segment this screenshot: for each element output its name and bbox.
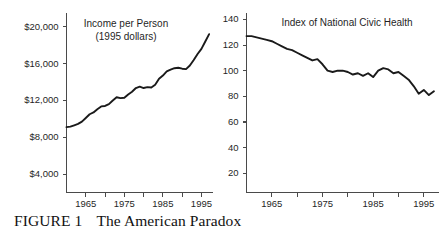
civic-axes	[247, 13, 440, 193]
civic-x-tick-group	[272, 193, 424, 197]
figure-container: $4,000$8,000$12,000$16,000$20,000 196519…	[0, 0, 448, 240]
chart-income-per-person: $4,000$8,000$12,000$16,000$20,000 196519…	[0, 0, 224, 206]
civic-y-tick-label: 40	[228, 142, 239, 153]
income-x-tick-group	[86, 193, 202, 197]
income-x-tick-label: 1995	[191, 198, 212, 209]
civic-y-tick-label: 80	[228, 90, 239, 101]
income-y-label-group: $4,000$8,000$12,000$16,000$20,000	[24, 21, 58, 179]
income-y-tick-label: $16,000	[24, 58, 58, 69]
civic-y-label-group: 20406080100120140	[223, 13, 239, 178]
income-y-tick-label: $4,000	[29, 168, 58, 179]
civic-chart-title: Index of National Civic Health	[281, 17, 412, 28]
income-y-tick-group	[63, 27, 67, 174]
civic-y-tick-label: 100	[223, 65, 239, 76]
figure-caption: FIGURE 1 The American Paradox	[14, 208, 434, 234]
income-chart-title: Income per Person	[84, 18, 169, 29]
civic-x-tick-label: 1995	[413, 198, 434, 209]
civic-x-tick-label: 1965	[261, 198, 282, 209]
income-chart-subtitle: (1995 dollars)	[95, 31, 156, 42]
income-x-tick-label: 1985	[152, 198, 173, 209]
civic-x-tick-label: 1985	[363, 198, 384, 209]
income-y-tick-label: $12,000	[24, 94, 58, 105]
chart-index-of-national-civic-health: 20406080100120140 1965197519851995 Index…	[215, 0, 448, 206]
civic-x-label-group: 1965197519851995	[261, 198, 434, 209]
civic-data-line	[247, 36, 434, 95]
income-chart-svg: $4,000$8,000$12,000$16,000$20,000 196519…	[0, 0, 224, 206]
civic-y-tick-group	[243, 19, 247, 173]
income-x-label-group: 1965197519851995	[75, 198, 212, 209]
income-x-tick-label: 1965	[75, 198, 96, 209]
income-y-tick-label: $20,000	[24, 21, 58, 32]
figure-caption-title: The American Paradox	[96, 212, 241, 230]
civic-x-tick-label: 1975	[312, 198, 333, 209]
civic-chart-svg: 20406080100120140 1965197519851995 Index…	[215, 0, 448, 206]
figure-caption-label: FIGURE 1	[14, 212, 82, 230]
income-data-line	[67, 34, 210, 127]
income-y-tick-label: $8,000	[29, 131, 58, 142]
civic-y-tick-label: 140	[223, 13, 239, 24]
civic-y-tick-label: 120	[223, 39, 239, 50]
income-x-tick-label: 1975	[114, 198, 135, 209]
civic-y-tick-label: 20	[228, 167, 239, 178]
civic-y-tick-label: 60	[228, 116, 239, 127]
